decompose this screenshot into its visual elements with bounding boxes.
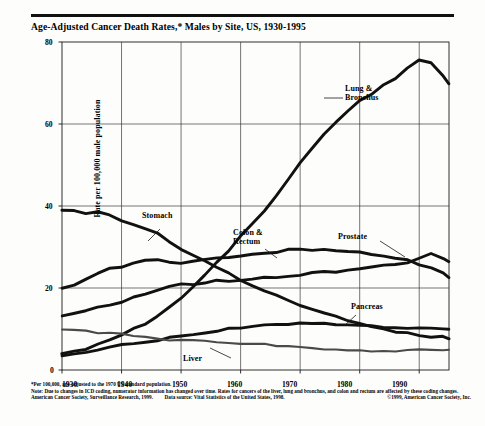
footnote-copyright: ©1999, American Cancer Society, Inc.	[387, 394, 471, 401]
footnote-source-row: American Cancer Society, Surveillance Re…	[31, 394, 471, 401]
series-label-stomach: Stomach	[142, 211, 172, 220]
series-label-lung: Lung & Bronchus	[345, 84, 379, 102]
chart-page: Age-Adjusted Cancer Death Rates,* Males …	[0, 0, 485, 426]
series-label-lung-line1: Lung &	[345, 84, 379, 93]
y-tick-0: 0	[50, 366, 54, 375]
page-title: Age-Adjusted Cancer Death Rates,* Males …	[31, 21, 461, 32]
series-label-pancreas: Pancreas	[351, 302, 383, 311]
y-axis-label: Rate per 100,000 male population	[93, 84, 102, 234]
series-label-colon-line2: Rectum	[233, 237, 263, 246]
footnote-star: *Per 100,000, age-adjusted to the 1970 U…	[31, 381, 471, 388]
series-label-colon-line1: Colon &	[233, 228, 263, 237]
series-label-liver: Liver	[183, 354, 202, 363]
y-tick-60: 60	[45, 120, 53, 129]
footnote-society: American Cancer Society, Surveillance Re…	[31, 394, 153, 400]
footnote-source-left: American Cancer Society, Surveillance Re…	[31, 394, 285, 401]
footnote-note: Note: Due to changes in ICD coding, nume…	[31, 388, 471, 395]
title-rule	[31, 14, 454, 17]
footnotes: *Per 100,000, age-adjusted to the 1970 U…	[31, 381, 471, 401]
y-tick-20: 20	[45, 284, 53, 293]
plot-area: Rate per 100,000 male population 80 60 4…	[31, 36, 471, 381]
series-label-prostate: Prostate	[338, 232, 367, 241]
series-label-lung-line2: Bronchus	[345, 93, 379, 102]
footnote-data-source: Data source: Vital Statistics of the Uni…	[165, 394, 285, 400]
y-tick-80: 80	[45, 38, 53, 47]
y-tick-40: 40	[45, 202, 53, 211]
series-label-colon: Colon & Rectum	[233, 228, 263, 246]
